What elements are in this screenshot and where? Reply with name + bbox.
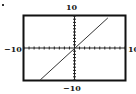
graph-window: [0, 0, 136, 94]
